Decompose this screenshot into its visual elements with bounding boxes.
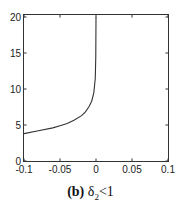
y-tick-label: 5 — [15, 120, 21, 131]
x-tick-label: 0.05 — [122, 164, 142, 175]
caption-label: (b) — [67, 184, 84, 199]
x-tick-label: 0.1 — [161, 164, 175, 175]
x-tick-label: 0 — [93, 164, 99, 175]
figure-caption: (b) δ2<1 — [0, 184, 181, 202]
x-axis-tick-labels: -0.1-0.0500.050.1 — [15, 164, 175, 175]
y-tick-label: 20 — [10, 12, 22, 23]
caption-relation: <1 — [99, 184, 114, 199]
chart-plot: -0.1-0.0500.050.1 05101520 — [0, 0, 181, 180]
data-series-line — [24, 17, 96, 134]
y-tick-label: 10 — [10, 84, 22, 95]
x-tick-label: -0.05 — [49, 164, 72, 175]
y-tick-label: 0 — [15, 156, 21, 167]
y-tick-label: 15 — [10, 48, 22, 59]
y-axis-tick-labels: 05101520 — [10, 12, 22, 167]
